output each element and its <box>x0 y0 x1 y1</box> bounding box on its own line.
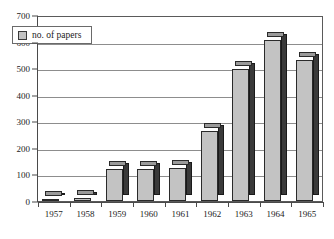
bar-top-face <box>45 191 62 196</box>
bar-top-face <box>267 32 284 37</box>
bar-front-face <box>296 60 313 201</box>
y-axis-tick-mark <box>32 16 38 17</box>
y-axis-tick-mark <box>32 148 38 149</box>
x-axis-tick-mark <box>196 202 197 207</box>
bar-side-face <box>154 163 160 195</box>
bar-top-face <box>299 52 316 57</box>
x-axis-tick-mark <box>291 202 292 207</box>
x-axis-tick-label: 1963 <box>235 209 253 219</box>
x-axis-tick-label: 1958 <box>77 209 95 219</box>
bar-side-face <box>218 125 224 195</box>
x-axis-tick-label: 1964 <box>267 209 285 219</box>
bar-top-face <box>140 161 157 166</box>
bar-side-face <box>249 63 255 195</box>
bar <box>264 34 287 201</box>
x-axis-tick-mark <box>228 202 229 207</box>
bar-front-face <box>42 199 59 201</box>
y-axis-tick-mark <box>32 122 38 123</box>
y-axis-tick-label: 300 <box>17 118 31 127</box>
y-axis-tick-label: 500 <box>17 65 31 74</box>
legend-item-label: no. of papers <box>32 30 81 40</box>
x-axis-tick-mark <box>70 202 71 207</box>
bar-side-face <box>186 162 192 195</box>
bar-side-face <box>281 34 287 195</box>
x-axis-tick-mark <box>165 202 166 207</box>
bar <box>201 125 224 201</box>
chart-legend: no. of papers <box>12 26 92 44</box>
y-axis-tick-mark <box>32 175 38 176</box>
bar-front-face <box>264 40 281 201</box>
y-axis-tick-mark <box>32 95 38 96</box>
bar-top-face <box>172 160 189 165</box>
x-axis-tick-mark <box>38 202 39 207</box>
bar-series <box>38 17 322 201</box>
bar <box>42 193 65 201</box>
y-axis-tick-label: 200 <box>17 144 31 153</box>
bar <box>106 163 129 201</box>
y-axis-tick-mark <box>32 42 38 43</box>
y-axis-tick-mark <box>32 69 38 70</box>
bar-top-face <box>109 161 126 166</box>
bar <box>232 63 255 201</box>
x-axis-tick-label: 1959 <box>108 209 126 219</box>
bar-front-face <box>201 131 218 201</box>
bar-front-face <box>232 69 249 201</box>
bar-side-face <box>123 163 129 195</box>
bar-top-face <box>204 123 221 128</box>
bar-side-face <box>313 54 319 195</box>
y-axis-tick-label: 0 <box>26 198 31 207</box>
x-axis-tick-label: 1965 <box>298 209 316 219</box>
bar <box>296 54 319 201</box>
x-axis-tick-label: 1962 <box>203 209 221 219</box>
legend-swatch-icon <box>18 31 27 40</box>
bar-front-face <box>137 169 154 201</box>
x-axis-line <box>38 202 323 203</box>
x-axis-tick-label: 1960 <box>140 209 158 219</box>
bar <box>74 192 97 201</box>
x-axis-tick-mark <box>323 202 324 207</box>
bar <box>137 163 160 201</box>
x-axis-tick-mark <box>101 202 102 207</box>
x-axis-tick-label: 1961 <box>172 209 190 219</box>
x-axis-tick-mark <box>133 202 134 207</box>
bar-front-face <box>74 198 91 201</box>
bar-chart: 0100200300400500600700 19571958195919601… <box>0 0 334 239</box>
bar-front-face <box>169 168 186 201</box>
x-axis-tick-label: 1957 <box>45 209 63 219</box>
bar-top-face <box>235 61 252 66</box>
x-axis-tick-mark <box>260 202 261 207</box>
bar <box>169 162 192 201</box>
y-axis-tick-label: 100 <box>17 171 31 180</box>
y-axis-tick-label: 700 <box>17 12 31 21</box>
y-axis-tick-label: 400 <box>17 91 31 100</box>
bar-front-face <box>106 169 123 201</box>
bar-top-face <box>77 190 94 195</box>
